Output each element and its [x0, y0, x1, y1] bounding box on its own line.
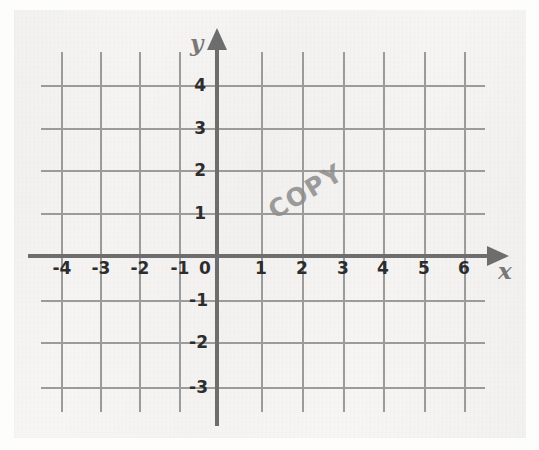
- x-tick-label-2: 2: [296, 260, 308, 277]
- y-axis-arrowhead-icon: [207, 28, 227, 50]
- y-tick-label-neg2: -2: [160, 334, 208, 351]
- gridline-vertical-x-4: [383, 52, 385, 412]
- gridline-vertical-x-neg3: [100, 52, 102, 412]
- gridline-vertical-x-1: [261, 52, 263, 412]
- y-tick-label-2: 2: [168, 162, 206, 179]
- gridline-vertical-x-5: [424, 52, 426, 412]
- x-tick-label-neg2: -2: [131, 260, 150, 277]
- gridline-vertical-x-neg4: [61, 52, 63, 412]
- gridline-vertical-x-2: [302, 52, 304, 412]
- gridline-horizontal-y-1: [41, 213, 485, 215]
- y-tick-label-neg1: -1: [160, 292, 208, 309]
- y-tick-label-1: 1: [168, 205, 206, 222]
- gridline-vertical-x-neg2: [139, 52, 141, 412]
- gridline-horizontal-y-neg2: [41, 342, 485, 344]
- coordinate-plane: -4 -3 -2 -1 0 1 2 3 4 5 6 4 3 2 1 -1 -2 …: [0, 0, 539, 450]
- gridline-horizontal-y-3: [41, 128, 485, 130]
- gridline-horizontal-y-4: [41, 85, 485, 87]
- y-axis-line: [215, 48, 219, 426]
- x-axis-label: x: [498, 259, 512, 282]
- origin-label: 0: [199, 260, 211, 277]
- graph-paper-scan: -4 -3 -2 -1 0 1 2 3 4 5 6 4 3 2 1 -1 -2 …: [0, 0, 539, 450]
- x-tick-label-neg4: -4: [53, 260, 72, 277]
- x-tick-label-5: 5: [418, 260, 430, 277]
- x-tick-label-neg3: -3: [92, 260, 111, 277]
- y-tick-label-4: 4: [168, 77, 206, 94]
- x-tick-label-3: 3: [337, 260, 349, 277]
- gridline-horizontal-y-neg1: [41, 300, 485, 302]
- copy-watermark: COPY: [263, 158, 348, 225]
- y-tick-label-neg3: -3: [160, 379, 208, 396]
- x-tick-label-4: 4: [377, 260, 389, 277]
- gridline-vertical-x-neg1: [179, 52, 181, 412]
- x-tick-label-neg1: -1: [171, 260, 190, 277]
- y-tick-label-3: 3: [168, 120, 206, 137]
- gridline-vertical-x-6: [464, 52, 466, 412]
- x-tick-label-1: 1: [255, 260, 267, 277]
- gridline-horizontal-y-2: [41, 170, 485, 172]
- gridline-vertical-x-3: [343, 52, 345, 412]
- x-tick-label-6: 6: [458, 260, 470, 277]
- y-axis-label: y: [190, 31, 203, 54]
- gridline-horizontal-y-neg3: [41, 387, 485, 389]
